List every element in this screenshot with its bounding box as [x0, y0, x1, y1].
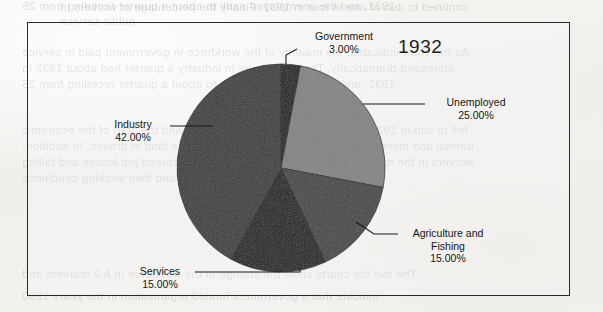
pie-slices [177, 64, 385, 272]
pie-label-government-value: 3.00% [296, 43, 392, 56]
pie-label-unemployed: Unemployed 25.00% [424, 96, 528, 121]
pie-label-government: Government 3.00% [296, 30, 392, 55]
pie-label-industry-name: Industry [114, 118, 151, 130]
scanned-page: contined to duh of one in four in 1932. … [0, 0, 603, 312]
pie-label-unemployed-name: Unemployed [447, 96, 506, 108]
pie-label-agriculture: Agriculture and Fishing 15.00% [396, 227, 500, 265]
pie-label-industry: Industry 42.00% [100, 118, 166, 143]
pie-label-agriculture-line1: Agriculture and [413, 227, 484, 239]
pie-label-services-name: Services [140, 265, 180, 277]
pie-label-unemployed-value: 25.00% [424, 109, 528, 122]
pie-label-government-name: Government [315, 30, 373, 42]
pie-label-agriculture-value: 15.00% [396, 252, 500, 265]
pie-label-services: Services 15.00% [128, 265, 192, 290]
pie-label-services-value: 15.00% [128, 278, 192, 291]
pie-label-agriculture-line2: Fishing [396, 240, 500, 253]
pie-label-industry-value: 42.00% [100, 131, 166, 144]
